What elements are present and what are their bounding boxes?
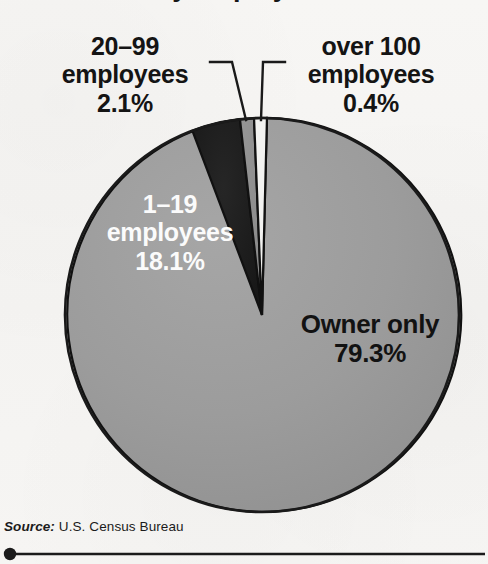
source-note: Source: U.S. Census Bureau [4,519,184,534]
slice-label-1-19-employees: 1–19 employees 18.1% [80,190,260,275]
callout-20-99-line1: 20–99 [30,32,220,60]
slice-callout-20-99-employees: 20–99 employees 2.1% [30,32,220,117]
slice-callout-over-100-employees: over 100 employees 0.4% [276,32,466,117]
callout-20-99-line2: employees [30,60,220,88]
label-owner-value: 79.3% [272,339,468,368]
callout-over100-line2: employees [276,60,466,88]
source-keyword: Source: [4,519,55,534]
label-owner-line1: Owner only [272,310,468,339]
label-1-19-value: 18.1% [80,247,260,275]
source-text: U.S. Census Bureau [55,519,184,534]
callout-over100-value: 0.4% [276,89,466,117]
callout-over100-line1: over 100 [276,32,466,60]
pie-chart-figure: by employees [0,0,488,564]
callout-20-99-value: 2.1% [30,89,220,117]
slice-label-owner-only: Owner only 79.3% [272,310,468,369]
label-1-19-line2: employees [80,218,260,246]
bottom-rule [3,547,485,561]
label-1-19-line1: 1–19 [80,190,260,218]
bottom-rule-bullet-icon [4,548,16,560]
